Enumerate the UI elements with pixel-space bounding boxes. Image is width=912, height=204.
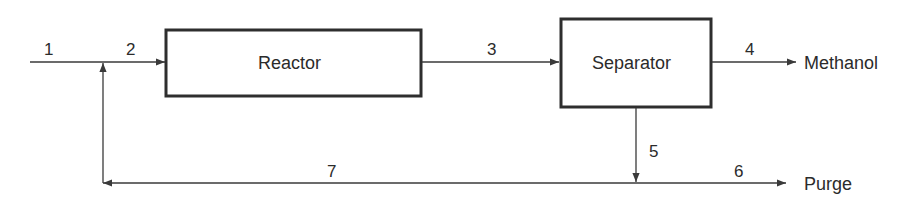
- stream-label-1: 1: [44, 41, 53, 58]
- stream-label-4: 4: [745, 41, 754, 58]
- process-flow-diagram: 1 2 3 4 5 6 7 Reactor Separator Methanol…: [0, 0, 912, 204]
- stream-label-6: 6: [734, 163, 743, 180]
- stream-label-5: 5: [649, 143, 658, 160]
- stream-label-3: 3: [487, 41, 496, 58]
- diagram-lines: [0, 0, 912, 204]
- separator-label: Separator: [592, 54, 671, 72]
- stream-label-2: 2: [126, 41, 135, 58]
- methanol-output-label: Methanol: [804, 54, 878, 72]
- purge-output-label: Purge: [804, 175, 852, 193]
- stream-label-7: 7: [327, 163, 336, 180]
- reactor-label: Reactor: [258, 54, 321, 72]
